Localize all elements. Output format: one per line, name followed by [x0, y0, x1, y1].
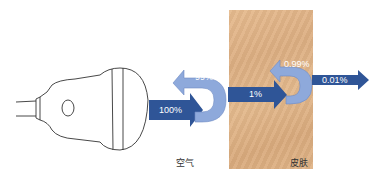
skin-label: 皮肤 [290, 156, 308, 169]
ultrasound-probe-icon [16, 68, 148, 150]
diagram-graphics [0, 0, 382, 180]
reflect-air-percent: 99% [195, 72, 213, 82]
air-label: 空气 [176, 156, 194, 169]
diagram-canvas: 100% 99% 1% 0.99% 0.01% 空气 皮肤 [0, 0, 382, 180]
transmit-out-percent: 0.01% [322, 75, 348, 85]
incident-percent: 100% [159, 105, 182, 115]
reflect-skin-percent: 0.99% [284, 59, 310, 69]
transmit-skin-percent: 1% [249, 89, 262, 99]
